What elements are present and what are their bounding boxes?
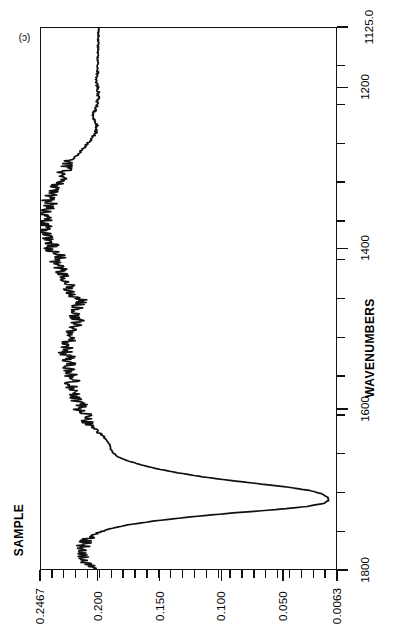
absorbance-tick — [63, 570, 64, 578]
wavenumber-tick-label: 1400 — [352, 226, 400, 270]
absorbance-tick — [146, 570, 147, 578]
wavenumber-tick — [337, 220, 345, 221]
absorbance-tick — [99, 570, 100, 578]
wavenumber-tick-label-text: 1800 — [359, 557, 371, 583]
absorbance-tick-label: 0.100 — [199, 584, 243, 628]
absorbance-tick-label: 0.150 — [137, 584, 181, 628]
wavenumber-tick — [337, 492, 345, 493]
absorbance-tick-major — [336, 570, 337, 581]
wavenumber-tick — [337, 337, 345, 338]
wavenumber-tick — [337, 65, 345, 66]
wavenumber-tick — [337, 259, 345, 260]
absorbance-tick-label-text: 0.2467 — [34, 588, 46, 624]
wavenumber-tick — [337, 181, 345, 182]
absorbance-tick — [229, 570, 230, 578]
absorbance-tick — [265, 570, 266, 578]
absorbance-tick — [253, 570, 254, 578]
absorbance-tick-label-text: 0.0063 — [331, 588, 343, 624]
absorbance-tick — [218, 570, 219, 578]
absorbance-axis-title-text: SAMPLE — [12, 504, 26, 556]
absorbance-tick-label: 0.2467 — [18, 584, 62, 628]
absorbance-tick — [51, 570, 52, 578]
wavenumber-tick — [337, 531, 345, 532]
absorbance-tick-major — [221, 570, 222, 581]
absorbance-tick — [241, 570, 242, 578]
spectrum-curve — [41, 28, 336, 569]
absorbance-tick — [289, 570, 290, 578]
absorbance-tick-label-text: 0.100 — [215, 591, 227, 621]
absorbance-tick-label: 0.200 — [76, 584, 120, 628]
absorbance-tick — [194, 570, 195, 578]
wavenumber-tick — [337, 414, 345, 415]
absorbance-tick-label-text: 0.150 — [153, 591, 165, 621]
absorbance-tick-major — [39, 570, 40, 581]
wavenumber-tick-label: 1200 — [352, 65, 400, 109]
absorbance-axis-title: SAMPLE — [8, 495, 30, 565]
wavenumber-tick — [337, 375, 345, 376]
absorbance-tick — [122, 570, 123, 578]
absorbance-tick — [206, 570, 207, 578]
absorbance-tick — [111, 570, 112, 578]
absorbance-tick — [301, 570, 302, 578]
wavenumber-tick-major — [337, 26, 348, 27]
absorbance-tick-label: 0.050 — [261, 584, 305, 628]
absorbance-tick-major — [97, 570, 98, 581]
absorbance-tick — [324, 570, 325, 578]
wavenumber-tick-label-text: 1125.0 — [363, 10, 375, 44]
wavenumbers-axis-title: WAVENUMBERS — [358, 288, 382, 408]
absorbance-tick-label-text: 0.200 — [92, 591, 104, 621]
wavenumber-tick — [337, 104, 345, 105]
wavenumber-tick-major — [337, 408, 348, 409]
absorbance-tick-major — [159, 570, 160, 581]
wavenumber-tick-major — [337, 569, 348, 570]
wavenumber-tick — [337, 143, 345, 144]
wavenumber-tick — [337, 298, 345, 299]
plot-frame — [40, 27, 337, 570]
wavenumbers-axis-title-text: WAVENUMBERS — [363, 298, 377, 398]
absorbance-tick — [182, 570, 183, 578]
absorbance-tick-label-text: 0.050 — [277, 591, 289, 621]
wavenumber-tick-label: 1125.0 — [352, 5, 400, 49]
wavenumber-tick-major — [337, 87, 348, 88]
absorbance-tick — [170, 570, 171, 578]
panel-label-text: (c) — [19, 33, 31, 44]
absorbance-tick — [87, 570, 88, 578]
absorbance-tick — [313, 570, 314, 578]
absorbance-axis — [40, 570, 337, 582]
panel-label: (c) — [12, 28, 38, 50]
wavenumber-tick-label: 1800 — [352, 548, 400, 592]
wavenumber-tick — [337, 453, 345, 454]
absorbance-tick-major — [282, 570, 283, 581]
absorbance-tick — [277, 570, 278, 578]
ftir-spectrum-figure: (c) 0.24670.2000.1500.1000.0500.0063 180… — [0, 0, 407, 636]
wavenumber-tick-major — [337, 248, 348, 249]
absorbance-tick — [75, 570, 76, 578]
absorbance-tick — [134, 570, 135, 578]
wavenumbers-axis — [337, 27, 349, 570]
wavenumber-tick-label-text: 1200 — [359, 75, 371, 101]
wavenumber-tick-label-text: 1400 — [359, 235, 371, 261]
